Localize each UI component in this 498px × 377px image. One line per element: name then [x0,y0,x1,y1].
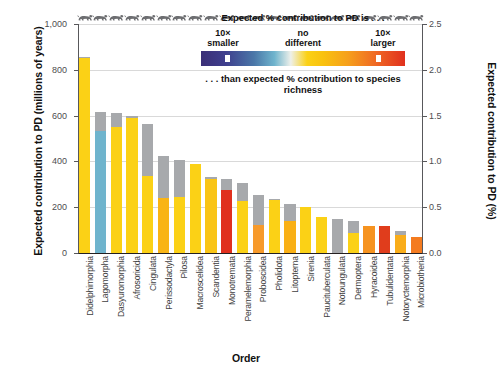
x-label-slot: Sirenia [300,256,311,354]
bar-column[interactable] [111,24,122,253]
bar[interactable] [142,124,153,253]
legend: Expected % contribution to PD is . . . 1… [186,12,420,95]
y-tick-left [74,161,78,162]
y-tick-right [423,207,427,208]
x-axis-label-afrosoricida: Afrosoricida [132,256,142,300]
y-tick-label-right: 1.5 [429,111,442,121]
bar-segment-colored [316,217,327,253]
bar-column[interactable] [158,24,169,253]
x-label-slot: Notoryctemorphia [395,256,406,354]
bar-segment-colored [300,207,311,253]
armadillo-icon [140,13,156,24]
x-label-slot: Pholidota [269,256,280,354]
bar[interactable] [411,237,422,253]
bar[interactable] [126,116,137,253]
bar-segment-gray [174,160,185,197]
y-tick-label-right: 2.0 [429,65,442,75]
y-tick-left [74,253,78,254]
bar-column[interactable] [95,24,106,253]
bar-segment-colored [395,235,406,253]
x-axis-label-notoryctemorphia: Notoryctemorphia [401,256,411,321]
bar-column[interactable] [142,24,153,253]
y-tick-label-right: 2.5 [429,19,442,29]
x-axis-label-proboscidea: Proboscidea [258,256,268,302]
legend-scale-labels: 10× smaller no different 10× larger [186,29,420,48]
bar[interactable] [395,231,406,253]
bar[interactable] [95,112,106,253]
bar[interactable] [237,183,248,253]
x-axis-label-lagomorpha: Lagomorpha [100,256,110,303]
x-label-slot: Lagomorpha [95,256,106,354]
x-label-slot: Dasyuromorphia [111,256,122,354]
x-axis-label-litopterna: Litopterna [290,256,300,293]
y-tick-left [74,116,78,117]
tapir-icon [156,13,172,24]
x-label-slot: Afrosoricida [126,256,137,354]
bar[interactable] [332,219,343,253]
bar-segment-gray [221,179,232,191]
x-label-slot: Tubulidentata [379,256,390,354]
bar[interactable] [379,226,390,253]
bar[interactable] [269,199,280,253]
bar[interactable] [205,177,216,253]
x-axis-labels: DidelphimorphiaLagomorphaDasyuromorphiaA… [79,256,422,354]
bar-segment-colored [142,176,153,253]
x-label-slot: Perissodactyla [158,256,169,354]
y-axis-title-right: Expected contribution to PD (%) [486,21,498,261]
y-tick-label-right: 1.0 [429,156,442,166]
legend-notch [376,55,381,62]
bar[interactable] [316,216,327,253]
quoll-icon [108,13,124,24]
bar-column[interactable] [126,24,137,253]
y-tick-left [74,24,78,25]
opossum-icon [77,13,93,24]
bar-column[interactable] [79,24,90,253]
bar[interactable] [284,204,295,253]
bar[interactable] [253,195,264,253]
bar[interactable] [79,57,90,253]
y-tick-left [74,70,78,71]
x-label-slot: Cingulata [142,256,153,354]
bar-segment-colored [332,219,343,253]
bar-segment-gray [95,112,106,130]
x-label-slot: Scandentia [205,256,216,354]
bar[interactable] [174,160,185,253]
legend-label-larger: 10× larger [352,29,414,48]
x-label-slot: Macroscelidea [190,256,201,354]
bar-segment-colored [174,197,185,253]
bar[interactable] [158,156,169,253]
y-tick-right [423,116,427,117]
bar[interactable] [221,179,232,253]
x-axis-label-hyracoidea: Hyracoidea [369,256,379,298]
x-label-slot: Hyracoidea [363,256,374,354]
x-axis-label-didelphimorphia: Didelphimorphia [85,256,95,316]
bar-segment-colored [269,200,280,253]
bar-segment-colored [284,221,295,253]
y-tick-label-left: 400 [52,156,67,166]
x-axis-label-tubulidentata: Tubulidentata [385,256,395,306]
x-label-slot: Monotremata [221,256,232,354]
bar-segment-colored [126,118,137,253]
x-axis-label-scandentia: Scandentia [211,256,221,298]
x-label-slot: Dermoptera [348,256,359,354]
bar-segment-colored [348,233,359,253]
bar[interactable] [363,226,374,253]
bar[interactable] [111,113,122,253]
y-tick-label-left: 800 [52,65,67,75]
legend-top-text: Expected % contribution to PD is . . . [186,12,420,23]
legend-label-neutral-line2: different [272,39,334,49]
legend-label-larger-line2: larger [352,39,414,49]
x-label-slot: Pilosa [174,256,185,354]
legend-bottom-text: . . . than expected % contribution to sp… [186,73,420,95]
bar-segment-colored [95,131,106,254]
bar[interactable] [348,221,359,253]
bar[interactable] [190,164,201,253]
bar[interactable] [300,207,311,253]
bar-column[interactable] [174,24,185,253]
legend-notch [225,55,230,62]
y-tick-label-left: 1,000 [44,19,67,29]
bar-segment-colored [411,237,422,253]
rabbit-icon [92,13,108,24]
y-tick-label-left: 200 [52,202,67,212]
